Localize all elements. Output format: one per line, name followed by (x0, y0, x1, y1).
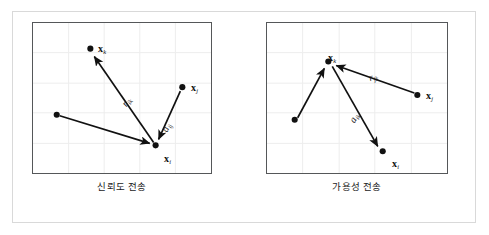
node-label-xk: xk (328, 48, 336, 64)
node-xi-dot (153, 142, 159, 148)
node-anon-dot (292, 117, 298, 123)
diagram-availability (267, 23, 447, 173)
node-label-xi: xi (392, 154, 399, 170)
plot-area-availability: xk xj xi rjk aik (266, 22, 448, 174)
panel-availability: xk xj xi rjk aik 가용성 전송 (266, 22, 469, 210)
node-label-xj: xj (191, 78, 198, 94)
node-xj-dot (414, 92, 420, 98)
node-xj-dot (179, 84, 185, 90)
node-xk-dot (87, 46, 93, 52)
panel-responsibility: xk xj xi rik aij 신뢰도 전송 (32, 22, 235, 210)
caption-responsibility: 신뢰도 전송 (32, 180, 212, 194)
panel-container: xk xj xi rik aij 신뢰도 전송 (0, 0, 489, 235)
node-xi-dot (380, 148, 386, 154)
figure-root: xk xj xi rik aij 신뢰도 전송 (0, 0, 489, 235)
node-label-xk: xk (98, 39, 106, 55)
plot-area-responsibility: xk xj xi rik aij (32, 22, 212, 174)
node-anon-dot (54, 112, 60, 118)
node-label-xi: xi (164, 149, 171, 165)
node-label-xj: xj (426, 86, 433, 102)
caption-availability: 가용성 전송 (266, 180, 448, 194)
arrow-anon-to-xi (60, 116, 150, 144)
arrow-anon-to-xk (298, 68, 325, 117)
